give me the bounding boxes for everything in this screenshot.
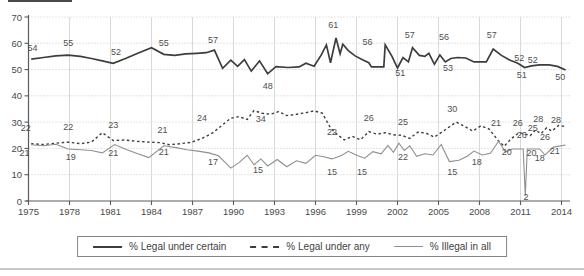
data-point-label: 34 (256, 114, 266, 124)
data-point-label: 25 (398, 117, 408, 127)
data-point-label: 51 (517, 70, 527, 80)
data-point-label: 57 (208, 35, 218, 45)
data-point-label: 26 (540, 132, 550, 142)
data-point-label: 15 (327, 167, 337, 177)
data-point-label: 18 (535, 153, 545, 163)
chart-legend: % Legal under certain % Legal under any … (77, 236, 507, 257)
data-point-label: 21 (159, 147, 169, 157)
data-point-label: 22 (398, 152, 408, 162)
legend-label-legal-under-any: % Legal under any (286, 241, 369, 252)
data-point-label: 50 (555, 72, 565, 82)
x-tick-label: 2011 (510, 206, 530, 217)
data-point-label: 55 (159, 38, 169, 48)
data-point-label: 53 (443, 63, 453, 73)
y-tick-label: 10 (11, 169, 22, 180)
data-point-label: 28 (533, 114, 543, 124)
data-point-label: 57 (405, 30, 415, 40)
legend-item-legal-under-any: % Legal under any (250, 241, 369, 252)
x-tick-label: 1984 (141, 206, 162, 217)
data-point-label: 51 (395, 68, 405, 78)
y-tick-label: 60 (11, 38, 22, 49)
x-tick-label: 1987 (182, 206, 203, 217)
data-point-label: 24 (197, 113, 207, 123)
data-point-label: 25 (528, 123, 538, 133)
y-tick-label: 70 (11, 12, 22, 23)
data-point-label: 15 (447, 167, 457, 177)
data-point-label: 54 (28, 43, 38, 53)
data-point-label: 52 (528, 55, 538, 65)
data-point-label: 20 (502, 147, 512, 157)
page-divider (0, 268, 584, 270)
x-tick-label: 2005 (428, 206, 449, 217)
x-tick-label: 2008 (469, 206, 490, 217)
report-page: 0102030405060701975197819811984198719901… (0, 0, 584, 276)
trend-line-chart: 0102030405060701975197819811984198719901… (0, 0, 584, 232)
legend-label-illegal-in-all: % Illegal in all (430, 241, 491, 252)
data-point-label: 18 (472, 157, 482, 167)
data-point-label: 15 (357, 167, 367, 177)
x-tick-label: 2002 (387, 206, 408, 217)
data-point-label: 21 (108, 148, 118, 158)
data-point-label: 22 (21, 123, 31, 133)
solid-line-swatch (93, 246, 122, 248)
y-tick-label: 40 (11, 90, 22, 101)
data-point-label: 19 (66, 152, 76, 162)
data-point-label: 21 (491, 118, 501, 128)
data-point-label: 61 (328, 20, 338, 30)
thin-line-swatch (394, 246, 423, 247)
data-point-label: 17 (208, 157, 218, 167)
data-point-label: 52 (111, 47, 121, 57)
data-point-label: 52 (514, 53, 524, 63)
data-point-label: 21 (19, 148, 29, 158)
data-point-label: 56 (439, 32, 449, 42)
legend-label-legal-under-certain: % Legal under certain (129, 241, 226, 252)
x-tick-label: 1993 (264, 206, 285, 217)
data-point-label: 57 (487, 30, 497, 40)
y-tick-label: 0 (17, 196, 22, 207)
data-point-label: 55 (63, 38, 73, 48)
data-point-label: 26 (364, 113, 374, 123)
x-tick-label: 1996 (305, 206, 326, 217)
data-point-label: 26 (517, 130, 527, 140)
x-tick-label: 1978 (59, 206, 80, 217)
x-tick-label: 1990 (223, 206, 244, 217)
x-tick-label: 1981 (100, 206, 121, 217)
data-point-label: 23 (108, 120, 118, 130)
data-point-label: 2 (523, 192, 528, 202)
data-point-label: 22 (327, 127, 337, 137)
data-point-label: 21 (550, 146, 560, 156)
legend-item-illegal-in-all: % Illegal in all (394, 241, 491, 252)
dashed-line-swatch (250, 246, 279, 248)
data-point-label: 28 (551, 115, 561, 125)
x-tick-label: 2014 (551, 206, 572, 217)
data-point-label: 26 (513, 118, 523, 128)
legend-item-legal-under-certain: % Legal under certain (93, 241, 226, 252)
data-point-label: 56 (362, 37, 372, 47)
data-point-label: 21 (157, 125, 167, 135)
data-point-label: 30 (447, 104, 457, 114)
x-tick-label: 1999 (346, 206, 367, 217)
data-point-label: 15 (253, 165, 263, 175)
data-point-label: 22 (63, 122, 73, 132)
data-point-label: 48 (263, 81, 273, 91)
x-tick-label: 1975 (18, 206, 39, 217)
y-tick-label: 50 (11, 64, 22, 75)
